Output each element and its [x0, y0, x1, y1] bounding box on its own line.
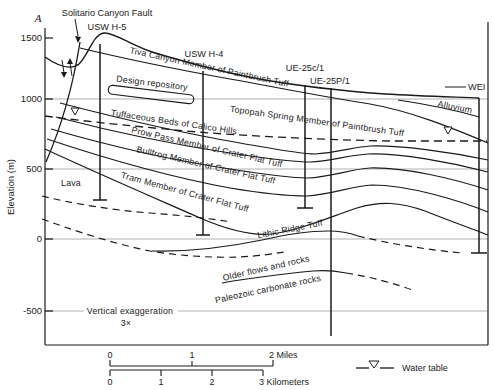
ground-surface-line	[45, 33, 479, 98]
y-tick-label-500: 500	[26, 163, 42, 174]
section-marker-a: A	[34, 12, 42, 24]
km-label-0: 0	[107, 377, 112, 387]
miles-label-2: 2 Miles	[269, 350, 298, 360]
label-lithic-ridge: Lithic Ridge Tuff	[256, 218, 323, 241]
scale-bars	[110, 360, 273, 376]
label-calico-hills: Tuffaceous Beds of Calico Hills	[110, 108, 238, 137]
legend-water-table: Water table	[356, 361, 448, 373]
paleozoic-top-dashed-line	[346, 273, 415, 291]
y-tick-label-0: 0	[37, 233, 42, 244]
fault-upthrow-arrow-icon	[70, 63, 72, 76]
miles-label-1: 1	[189, 350, 194, 360]
cross-section-svg: A 1500 1000 500 0 -500 Elevation (m) Sol…	[0, 0, 493, 390]
km-label-2: 2	[209, 377, 214, 387]
fault-leader-arrow-icon	[75, 36, 81, 43]
water-table-triangle-icon	[71, 108, 79, 115]
vertical-exaggeration-value: 3×	[121, 318, 131, 328]
geologic-cross-section: A 1500 1000 500 0 -500 Elevation (m) Sol…	[0, 0, 493, 390]
well-label-ue25c1: UE-25c/1	[286, 63, 324, 73]
y-axis-title: Elevation (m)	[5, 159, 16, 215]
y-tick-label-1000: 1000	[21, 93, 42, 104]
inferred-boundary-lines	[42, 196, 462, 291]
fault-upthrow-arrowhead-icon	[67, 58, 73, 64]
miles-label-0: 0	[107, 350, 112, 360]
label-topopah-spring: Topopah Spring Member of Paintbrush Tuff	[229, 104, 405, 138]
km-label-1: 1	[158, 377, 163, 387]
fault-leader-line	[75, 19, 78, 36]
label-lava: Lava	[61, 178, 81, 188]
label-alluvium: Alluvium	[437, 99, 473, 115]
well-label-right: WEI	[468, 82, 485, 92]
km-label-3: 3 Kilometers	[259, 377, 310, 387]
water-table-triangle-icon	[444, 127, 452, 134]
water-table-line	[45, 116, 487, 141]
well-label-usw-h5: USW H-5	[88, 22, 127, 32]
legend-water-table-label: Water table	[402, 363, 448, 373]
vertical-exaggeration-label: Vertical exaggeration	[87, 306, 173, 316]
legend-water-table-triangle-icon	[369, 361, 379, 368]
fault-label: Solitario Canyon Fault	[62, 8, 153, 18]
y-tick-label-minus500: -500	[23, 305, 42, 316]
y-tick-label-1500: 1500	[21, 32, 42, 43]
fault-downthrow-arrowhead-icon	[61, 72, 67, 78]
well-label-ue25p1: UE-25P/1	[310, 76, 350, 86]
